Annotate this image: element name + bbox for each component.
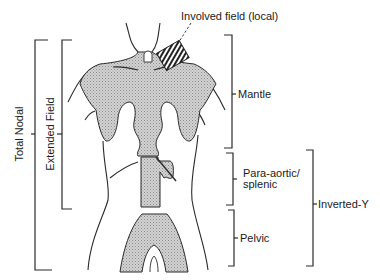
pelvic-region: [120, 214, 188, 272]
inverted-y-label: Inverted-Y: [318, 198, 369, 210]
trachea-gap: [144, 51, 152, 62]
para-aortic-splenic-region: [141, 157, 173, 207]
splenic-label: splenic: [243, 178, 277, 190]
radiotherapy-fields-diagram: Involved field (local) Mantle Para-aorti…: [0, 0, 380, 280]
right-brackets: [224, 35, 317, 266]
extended-field-label: Extended Field: [44, 89, 56, 179]
diagram-graphics: [0, 0, 380, 280]
involved-field-label: Involved field (local): [181, 10, 278, 22]
total-nodal-label: Total Nodal: [13, 99, 25, 169]
mantle-region: [80, 52, 216, 156]
mantle-label: Mantle: [238, 88, 271, 100]
pelvic-label: Pelvic: [240, 232, 269, 244]
